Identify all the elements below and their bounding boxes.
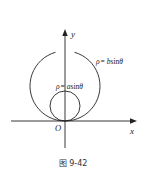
- x-axis-label: x: [129, 126, 134, 136]
- rho-symbol: ρ: [55, 82, 60, 91]
- origin-label: O: [55, 123, 61, 133]
- theta-symbol: θ: [119, 57, 123, 66]
- y-axis-label: y: [70, 29, 75, 39]
- x-axis: [11, 118, 137, 123]
- large-circle-label: ρ= bsinθ: [95, 57, 123, 66]
- figure-caption: 图 9-42: [59, 159, 88, 168]
- rho-symbol: ρ: [95, 57, 100, 66]
- theta-symbol: θ: [79, 82, 83, 91]
- polar-circles-diagram: y x O ρ= bsinθ ρ= asinθ 图 9-42: [0, 0, 146, 181]
- small-circle-label: ρ= asinθ: [55, 82, 83, 91]
- sin-function: sin: [110, 57, 119, 66]
- y-axis-arrow-icon: [62, 29, 67, 36]
- sin-function: sin: [70, 82, 79, 91]
- x-axis-arrow-icon: [130, 118, 137, 123]
